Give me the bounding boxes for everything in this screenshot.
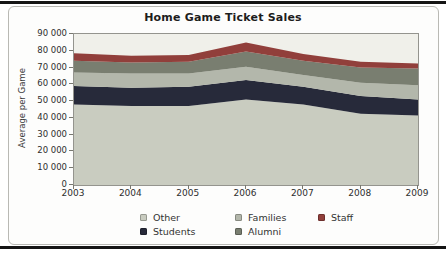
legend-item-alumni: Alumni xyxy=(235,226,281,237)
stacked-area-chart xyxy=(74,34,418,185)
x-tick-mark xyxy=(73,185,74,189)
plot-area xyxy=(73,33,419,186)
legend-label-staff: Staff xyxy=(331,212,353,223)
legend-label-families: Families xyxy=(248,212,286,223)
y-tick-label-70000: 70 000 xyxy=(25,62,67,72)
page-top-rule xyxy=(0,1,446,4)
x-tick-mark xyxy=(245,185,246,189)
legend-item-families: Families xyxy=(235,212,286,223)
y-tick-label-80000: 80 000 xyxy=(25,45,67,55)
legend-swatch-students xyxy=(140,228,147,235)
legend-swatch-staff xyxy=(318,214,325,221)
legend-item-staff: Staff xyxy=(318,212,353,223)
x-tick-mark xyxy=(417,185,418,189)
legend-label-students: Students xyxy=(153,226,195,237)
x-tick-mark xyxy=(188,185,189,189)
x-tick-mark xyxy=(130,185,131,189)
x-tick-mark xyxy=(360,185,361,189)
page-bottom-rule xyxy=(0,246,446,249)
y-tick-label-40000: 40 000 xyxy=(25,112,67,122)
legend-label-alumni: Alumni xyxy=(248,226,281,237)
y-tick-label-20000: 20 000 xyxy=(25,145,67,155)
y-tick-label-90000: 90 000 xyxy=(25,28,67,38)
x-tick-label-2006: 2006 xyxy=(228,188,262,198)
x-tick-label-2003: 2003 xyxy=(56,188,90,198)
y-axis-title: Average per Game xyxy=(17,33,29,183)
x-tick-label-2008: 2008 xyxy=(343,188,377,198)
x-tick-label-2005: 2005 xyxy=(171,188,205,198)
x-tick-label-2007: 2007 xyxy=(285,188,319,198)
y-tick-label-10000: 10 000 xyxy=(25,162,67,172)
y-tick-label-50000: 50 000 xyxy=(25,95,67,105)
x-tick-label-2004: 2004 xyxy=(113,188,147,198)
legend-swatch-families xyxy=(235,214,242,221)
chart-title: Home Game Ticket Sales xyxy=(0,11,446,24)
y-tick-label-30000: 30 000 xyxy=(25,129,67,139)
x-tick-mark xyxy=(302,185,303,189)
legend-item-other: Other xyxy=(140,212,180,223)
legend-label-other: Other xyxy=(153,212,180,223)
x-tick-label-2009: 2009 xyxy=(400,188,434,198)
legend-item-students: Students xyxy=(140,226,195,237)
legend-swatch-alumni xyxy=(235,228,242,235)
legend-swatch-other xyxy=(140,214,147,221)
y-tick-label-60000: 60 000 xyxy=(25,78,67,88)
